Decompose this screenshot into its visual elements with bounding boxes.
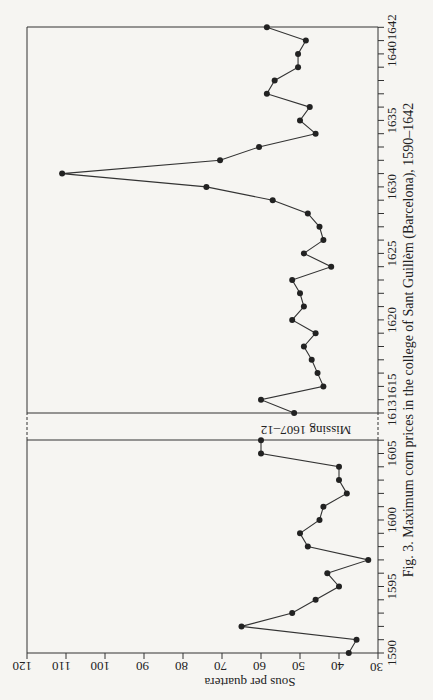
x-tick-label: 1615 (384, 373, 399, 399)
data-point (301, 304, 307, 310)
x-tick-label: 1640 (384, 41, 399, 67)
x-tick-label: 1605 (384, 441, 399, 467)
x-tick-label: 1620 (384, 307, 399, 333)
plot-frames (27, 27, 378, 653)
axis-ticks: 3040506070809010011012015901595160016051… (13, 14, 400, 675)
corn-price-chart: 3040506070809010011012015901595160016051… (0, 0, 433, 700)
x-tick-label: 1613 (384, 400, 399, 426)
data-point (305, 211, 311, 217)
data-point (336, 464, 342, 470)
y-tick-label: 40 (331, 659, 344, 674)
data-point (289, 277, 295, 283)
data-point (270, 197, 276, 203)
data-point (264, 24, 270, 30)
data-point (336, 584, 342, 590)
data-point (297, 530, 303, 536)
data-point (295, 51, 301, 57)
data-point (301, 344, 307, 350)
x-tick-label: 1595 (384, 574, 399, 600)
data-point (324, 570, 330, 576)
x-tick-label: 1625 (384, 240, 399, 266)
y-tick-label: 50 (292, 659, 305, 674)
data-point (289, 317, 295, 323)
y-tick-label: 110 (52, 659, 71, 674)
x-tick-label: 1590 (384, 640, 399, 666)
data-point (59, 171, 65, 177)
data-point (289, 610, 295, 616)
figure-caption: Fig. 3. Maximum corn prices in the colle… (401, 103, 417, 578)
y-tick-label: 70 (214, 659, 227, 674)
y-tick-label: 100 (91, 659, 111, 674)
data-point (336, 477, 342, 483)
data-point (346, 650, 352, 656)
missing-years-annotation: Missing 1607–12 (261, 423, 352, 438)
x-tick-label: 1630 (384, 174, 399, 200)
data-point (301, 250, 307, 256)
x-tick-label: 1642 (384, 14, 399, 40)
data-point (317, 224, 323, 230)
data-line (62, 27, 368, 653)
lower-frame (27, 440, 378, 653)
data-point (264, 91, 270, 97)
data-point (295, 64, 301, 70)
y-tick-label: 80 (175, 659, 188, 674)
data-point (291, 410, 297, 416)
data-point (320, 383, 326, 389)
x-tick-label: 1600 (384, 507, 399, 533)
data-point (305, 544, 311, 550)
data-point (317, 517, 323, 523)
y-tick-label: 90 (136, 659, 149, 674)
data-point (309, 357, 315, 363)
data-point (354, 637, 360, 643)
data-point (344, 490, 350, 496)
data-point (258, 451, 264, 457)
data-point (272, 78, 278, 84)
data-point (297, 290, 303, 296)
y-tick-label: 120 (13, 659, 33, 674)
data-points (59, 24, 371, 656)
data-point (320, 237, 326, 243)
data-point (203, 184, 209, 190)
data-point (313, 131, 319, 137)
data-point (313, 597, 319, 603)
data-point (297, 117, 303, 123)
data-point (307, 104, 313, 110)
data-point (313, 330, 319, 336)
data-point (328, 264, 334, 270)
upper-frame (27, 27, 378, 413)
y-tick-label: 60 (253, 659, 266, 674)
y-axis-label: Sous per quartera (204, 675, 295, 690)
data-point (365, 557, 371, 563)
data-point (320, 504, 326, 510)
data-point (315, 370, 321, 376)
y-tick-label: 30 (370, 660, 383, 675)
data-point (256, 144, 262, 150)
data-point (217, 157, 223, 163)
data-point (303, 38, 309, 44)
x-tick-label: 1635 (384, 107, 399, 133)
data-point (258, 397, 264, 403)
data-point (239, 623, 245, 629)
